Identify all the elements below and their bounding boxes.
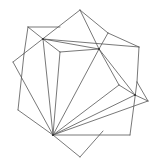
diagram-edges bbox=[13, 10, 148, 157]
vertex-mid_r bbox=[134, 94, 136, 96]
edge-inner_corner-hub_r bbox=[60, 49, 99, 52]
edge-upper_r-hub_r bbox=[99, 33, 108, 49]
edge-bracket_tl-left_side bbox=[24, 27, 28, 54]
edge-hub_ul-hub_b bbox=[43, 39, 53, 135]
edge-top-upper_r bbox=[80, 10, 108, 33]
edge-bracket_tl-hub_ul bbox=[28, 27, 43, 39]
edge-lower_l-hub_b bbox=[18, 110, 53, 135]
edge-mid_r-hub_b bbox=[53, 95, 135, 135]
vertex-hub_b bbox=[52, 134, 54, 136]
edge-far_r-hub_b bbox=[53, 101, 148, 135]
edge-left_side-lower_l bbox=[18, 54, 24, 110]
edge-hub_b-bottom bbox=[53, 135, 80, 157]
edge-hub_r-hub_b bbox=[53, 49, 99, 135]
edge-hub_r-inner_r bbox=[99, 49, 119, 85]
vertex-hub_ul bbox=[42, 38, 44, 40]
edge-hub_ul-hub_r bbox=[43, 39, 99, 49]
geometric-line-diagram bbox=[0, 0, 160, 166]
edge-corner_r-side_r bbox=[137, 47, 139, 82]
vertex-hub_r bbox=[98, 48, 100, 50]
edge-inner_corner-hub_b bbox=[53, 52, 60, 135]
edge-top-corner_l bbox=[13, 10, 80, 62]
edge-hub_ul-inner_corner bbox=[43, 39, 60, 52]
edge-inner_r-mid_r bbox=[119, 85, 135, 95]
edge-hub_r-mid_r bbox=[99, 49, 135, 95]
edge-inner_r-hub_b bbox=[53, 85, 119, 135]
